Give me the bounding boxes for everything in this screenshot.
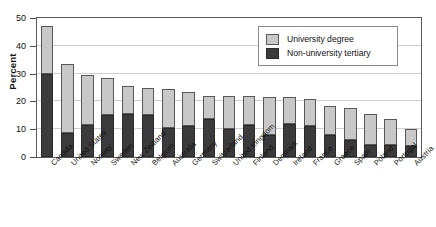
legend-swatch-non_university_tertiary <box>266 48 279 59</box>
bar-segment-university-degree <box>142 88 155 116</box>
y-axis-tick <box>30 46 36 47</box>
bar-segment-university-degree <box>223 96 236 129</box>
legend: University degreeNon-university tertiary <box>258 26 398 66</box>
y-axis-tick-label: 30 <box>0 69 26 79</box>
bar-stack <box>41 26 54 157</box>
legend-item-university_degree: University degree <box>266 32 391 46</box>
bar-segment-university-degree <box>162 89 175 128</box>
y-axis-tick <box>30 101 36 102</box>
y-axis-tick <box>30 18 36 19</box>
y-axis-tick-label: 20 <box>0 96 26 106</box>
legend-swatch-university_degree <box>266 34 279 45</box>
bar-segment-university-degree <box>81 75 94 125</box>
bar-segment-university-degree <box>41 26 54 73</box>
bar-segment-university-degree <box>101 78 114 116</box>
bar-segment-university-degree <box>243 96 256 125</box>
x-axis-labels: CanadaUnited StatesNorwaySwedenNew Zeala… <box>37 159 421 227</box>
bar-segment-university-degree <box>61 64 74 134</box>
y-axis-tick-label: 10 <box>0 124 26 134</box>
bar-segment-non-university-tertiary <box>41 74 54 157</box>
bar-segment-university-degree <box>384 119 397 144</box>
bar-segment-university-degree <box>364 114 377 145</box>
y-axis-tick-label: 50 <box>0 13 26 23</box>
cut-off-title-fragment <box>58 0 318 5</box>
y-axis-tick <box>30 157 36 158</box>
bar-segment-university-degree <box>344 108 357 140</box>
y-axis-tick-label: 0 <box>0 152 26 162</box>
bar-segment-university-degree <box>324 106 337 135</box>
legend-label-university_degree: University degree <box>287 34 354 44</box>
bar-segment-university-degree <box>304 99 317 127</box>
bar-segment-university-degree <box>122 86 135 114</box>
y-axis-tick <box>30 129 36 130</box>
bar-segment-university-degree <box>283 97 296 123</box>
bar-segment-university-degree <box>182 92 195 127</box>
bar-segment-university-degree <box>203 96 216 120</box>
legend-label-non_university_tertiary: Non-university tertiary <box>287 48 371 58</box>
y-axis-tick <box>30 74 36 75</box>
y-axis-tick-label: 40 <box>0 41 26 51</box>
legend-item-non_university_tertiary: Non-university tertiary <box>266 46 391 60</box>
